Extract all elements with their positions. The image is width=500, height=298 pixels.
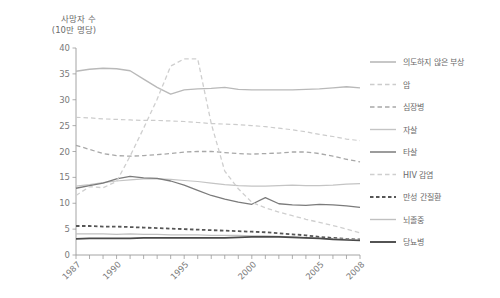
- y-tick-label: 15: [59, 172, 70, 182]
- y-tick-label: 10: [59, 198, 70, 208]
- chart-container: 사망자 수 (10만 명당) 0510152025303540 19871990…: [0, 0, 500, 298]
- line-chart-plot: 0510152025303540 19871990199520002005200…: [0, 0, 500, 298]
- legend-label-3: 자살: [403, 126, 418, 135]
- series-line-2: [76, 145, 360, 162]
- y-tick-label: 30: [59, 95, 70, 105]
- x-tick-label: 1987: [60, 259, 82, 281]
- legend-label-2: 심장병: [403, 102, 424, 112]
- y-tick-label: 25: [59, 121, 70, 131]
- x-tick-label: 2000: [236, 259, 258, 281]
- y-tick-label: 20: [59, 147, 70, 157]
- legend-label-8: 당뇨병: [403, 237, 424, 247]
- x-tick-label: 2008: [344, 259, 366, 281]
- x-tick-label: 1995: [168, 259, 190, 281]
- chart-legend: 의도하지 않은 부상암심장병자살타살HIV 감염만성 간질환뇌졸중당뇨병: [370, 57, 465, 247]
- series-line-5: [76, 59, 360, 233]
- y-tick-label: 35: [59, 69, 70, 79]
- series-line-1: [76, 117, 360, 140]
- series-line-0: [76, 68, 360, 94]
- y-tick-label: 5: [65, 224, 70, 234]
- y-tick-label: 0: [65, 250, 70, 260]
- x-tick-labels: 198719901995200020052008: [60, 259, 366, 281]
- legend-label-4: 타살: [403, 148, 418, 157]
- x-tick-label: 2005: [303, 259, 325, 281]
- legend-label-7: 뇌졸중: [403, 216, 424, 225]
- series-layer: [76, 59, 360, 241]
- legend-label-1: 암: [403, 80, 411, 90]
- legend-label-5: HIV 감염: [403, 170, 433, 180]
- legend-label-0: 의도하지 않은 부상: [403, 57, 465, 67]
- x-tick-label: 1990: [101, 259, 123, 281]
- series-line-3: [76, 179, 360, 186]
- legend-label-6: 만성 간질환: [403, 192, 442, 202]
- y-tick-label: 40: [59, 43, 70, 53]
